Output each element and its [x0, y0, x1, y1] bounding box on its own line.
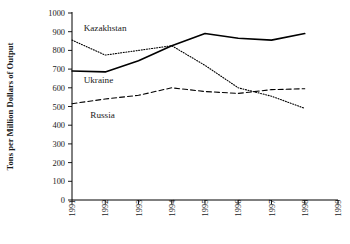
y-tick-label: 700: [52, 65, 65, 74]
y-tick-label: 300: [52, 140, 65, 149]
x-tick-label: 1997: [268, 200, 277, 217]
y-tick-label: 900: [52, 28, 65, 37]
x-tick-label: 1993: [135, 200, 144, 217]
series-line-russia: [72, 88, 305, 104]
y-tick-label: 1000: [48, 9, 65, 18]
y-axis-title: Tons per Million Dollars of Output: [5, 43, 15, 171]
chart-container: Tons per Million Dollars of Output 01002…: [0, 0, 350, 244]
annotation-ukraine: Ukraine: [84, 75, 114, 85]
x-tick-label: 1991: [68, 200, 77, 217]
series-lines: [72, 34, 305, 109]
x-tick-label: 1996: [234, 200, 243, 217]
x-axis-ticks: 199119921993199419951996199719981999: [68, 199, 343, 217]
y-tick-label: 800: [52, 46, 65, 55]
x-tick-label: 1999: [334, 200, 343, 217]
y-axis-ticks: 01002003004005006007008009001000: [48, 9, 72, 205]
x-tick-label: 1994: [168, 199, 177, 217]
annotation-russia: Russia: [90, 110, 115, 120]
y-tick-label: 400: [52, 121, 65, 130]
annotation-kazakhstan: Kazakhstan: [84, 23, 127, 33]
y-tick-label: 200: [52, 159, 65, 168]
y-tick-label: 100: [52, 177, 65, 186]
y-tick-label: 0: [61, 196, 65, 205]
x-tick-label: 1992: [101, 200, 110, 217]
series-line-ukraine: [72, 34, 305, 72]
x-tick-label: 1998: [301, 200, 310, 217]
x-tick-label: 1995: [201, 200, 210, 217]
line-chart: Tons per Million Dollars of Output 01002…: [0, 0, 350, 244]
y-tick-label: 500: [52, 103, 65, 112]
y-tick-label: 600: [52, 84, 65, 93]
y-axis-title-text: Tons per Million Dollars of Output: [5, 43, 15, 171]
